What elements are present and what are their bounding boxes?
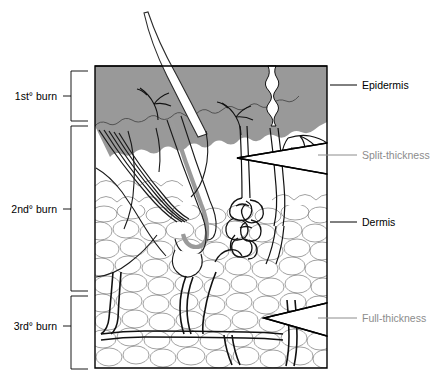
right-label-group: Epidermis Split-thickness Dermis Full-th… — [318, 79, 430, 324]
bracket-second-degree — [71, 126, 88, 291]
skin-cross-section — [88, 12, 338, 368]
label-first-degree-burn: 1st° burn — [15, 90, 57, 102]
label-epidermis: Epidermis — [362, 79, 409, 91]
label-dermis: Dermis — [362, 216, 395, 228]
label-full-thickness: Full-thickness — [362, 312, 426, 324]
bracket-first-degree — [71, 71, 88, 121]
left-bracket-group — [63, 71, 88, 369]
label-split-thickness: Split-thickness — [362, 149, 430, 161]
skin-burn-depth-diagram: 1st° burn 2nd° burn 3rd° burn — [0, 0, 444, 379]
label-second-degree-burn: 2nd° burn — [11, 203, 57, 215]
label-third-degree-burn: 3rd° burn — [14, 320, 57, 332]
bracket-third-degree — [71, 296, 88, 369]
